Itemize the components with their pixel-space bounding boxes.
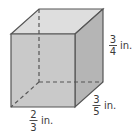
- height-numerator: 3: [110, 34, 116, 45]
- depth-label: 3 5 in.: [93, 94, 117, 117]
- width-label: 2 3 in.: [30, 109, 54, 133]
- height-denominator: 4: [110, 46, 116, 57]
- width-denominator: 3: [30, 122, 36, 133]
- front-face: [11, 34, 75, 107]
- height-label: 3 4 in.: [109, 34, 132, 57]
- width-numerator: 2: [30, 109, 36, 120]
- depth-unit: in.: [104, 100, 116, 111]
- height-unit: in.: [120, 40, 132, 51]
- prism-diagram: 3 4 in. 3 5 in. 2 3 in.: [0, 0, 134, 138]
- depth-denominator: 5: [93, 106, 99, 117]
- width-unit: in.: [41, 115, 53, 126]
- depth-numerator: 3: [93, 94, 99, 105]
